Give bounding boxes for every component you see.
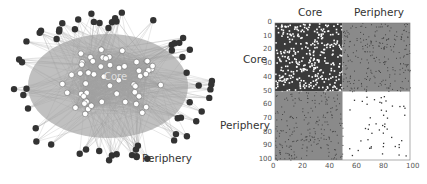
periphery-node [169, 47, 175, 53]
core-node [81, 94, 87, 100]
core-node [114, 91, 120, 97]
y-tick-label: 50 [263, 87, 272, 95]
periphery-node [23, 85, 29, 91]
periphery-node [77, 151, 83, 157]
network-periphery-label: Periphery [142, 152, 192, 164]
core-node [136, 68, 142, 74]
x-tick-label: 80 [379, 162, 388, 170]
periphery-node [11, 86, 17, 92]
periphery-node [175, 115, 181, 121]
periphery-node [83, 146, 89, 152]
core-node [98, 64, 104, 70]
core-node [90, 58, 96, 64]
periphery-node [105, 25, 111, 31]
core-node [134, 59, 140, 65]
periphery-node [59, 20, 65, 26]
x-tick-label: 20 [298, 162, 307, 170]
y-tick-label: 40 [263, 73, 272, 81]
x-tick-label: 40 [325, 162, 334, 170]
core-node [139, 110, 145, 116]
y-tick-label: 70 [263, 114, 272, 122]
adjacency-matrix [220, 0, 427, 184]
core-node [136, 94, 142, 100]
periphery-node [96, 20, 102, 26]
core-node [132, 89, 138, 95]
network-core-label: Core [104, 71, 127, 82]
core-node [107, 83, 113, 89]
core-node [82, 101, 88, 107]
core-node [91, 72, 97, 78]
periphery-node [91, 19, 97, 25]
periphery-node [36, 30, 42, 36]
periphery-node [75, 16, 81, 22]
periphery-node [150, 17, 156, 23]
core-node [69, 72, 75, 78]
periphery-node [209, 78, 215, 84]
periphery-node [135, 143, 141, 149]
core-node [77, 71, 83, 77]
periphery-node [96, 148, 102, 154]
y-tick-label: 0 [268, 18, 272, 26]
core-node [83, 81, 89, 87]
core-node [99, 99, 105, 105]
periphery-node [25, 105, 31, 111]
core-node [122, 99, 128, 105]
x-tick-label: 100 [406, 162, 419, 170]
periphery-node [206, 95, 212, 101]
periphery-node [19, 59, 25, 65]
core-node [133, 83, 139, 89]
core-node [99, 47, 105, 53]
x-tick-label: 0 [271, 162, 275, 170]
y-tick-label: 60 [263, 100, 272, 108]
matrix-col-label-core: Core [298, 6, 322, 18]
core-node [73, 105, 79, 111]
matrix-col-label-periphery: Periphery [354, 6, 404, 18]
periphery-node [183, 69, 189, 75]
core-node [60, 81, 66, 87]
periphery-node [133, 153, 139, 159]
y-tick-label: 30 [263, 59, 272, 67]
periphery-node [176, 40, 182, 46]
core-node [116, 65, 122, 71]
periphery-node [88, 11, 94, 17]
y-tick-label: 20 [263, 45, 272, 53]
core-node [82, 111, 88, 117]
y-tick-label: 100 [259, 155, 272, 163]
periphery-node [48, 141, 54, 147]
core-node [143, 104, 149, 110]
periphery-node [20, 92, 26, 98]
y-tick-label: 80 [263, 128, 272, 136]
periphery-node [109, 152, 115, 158]
core-node [89, 103, 95, 109]
periphery-node [112, 15, 118, 21]
core-node [64, 90, 70, 96]
core-node [143, 71, 149, 77]
periphery-node [53, 36, 59, 42]
core-node [107, 62, 113, 68]
core-node [137, 73, 143, 79]
periphery-node [23, 38, 29, 44]
periphery-node [193, 118, 199, 124]
periphery-node [184, 133, 190, 139]
periphery-node [187, 47, 193, 53]
periphery-node [187, 99, 193, 105]
y-tick-label: 90 [263, 141, 272, 149]
core-node [122, 63, 128, 69]
periphery-node [171, 137, 177, 143]
core-node [145, 58, 151, 64]
periphery-node [119, 9, 125, 15]
periphery-node [196, 82, 202, 88]
periphery-node [56, 28, 62, 34]
core-node [133, 101, 139, 107]
y-tick-label: 10 [263, 32, 272, 40]
x-tick-label: 60 [352, 162, 361, 170]
core-node [158, 82, 164, 88]
periphery-node [33, 125, 39, 131]
periphery-node [173, 131, 179, 137]
periphery-node [199, 108, 205, 114]
core-node [79, 62, 85, 68]
core-node [119, 48, 125, 54]
core-node [78, 51, 84, 57]
core-node [103, 56, 109, 62]
core-node [86, 70, 92, 76]
